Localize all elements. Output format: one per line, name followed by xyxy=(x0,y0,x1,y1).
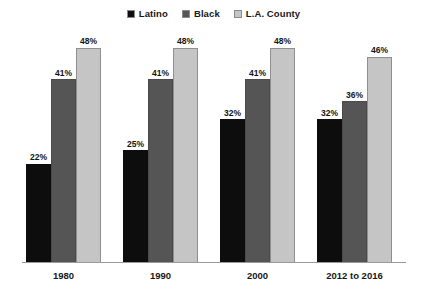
bar[interactable] xyxy=(76,48,101,262)
x-axis-tick-label: 2012 to 2016 xyxy=(317,266,392,286)
bar[interactable] xyxy=(26,164,51,262)
legend-entry-latino[interactable]: Latino xyxy=(127,9,168,19)
legend-entry-l-a-county[interactable]: L.A. County xyxy=(234,9,300,19)
bar[interactable] xyxy=(270,48,295,262)
bar[interactable] xyxy=(245,79,270,262)
legend-swatch-latino xyxy=(127,10,135,18)
bar-value-label: 48% xyxy=(274,37,291,46)
bar-value-label: 32% xyxy=(224,109,241,118)
bar-value-label: 41% xyxy=(152,69,169,78)
bar[interactable] xyxy=(317,119,342,262)
bar-slot: 32% xyxy=(220,30,245,262)
bar[interactable] xyxy=(367,57,392,262)
bar-value-label: 22% xyxy=(30,153,47,162)
bar-value-label: 25% xyxy=(127,140,144,149)
bar-group: 32%41%48% xyxy=(220,30,295,262)
bar-chart: LatinoBlackL.A. County 22%41%48%25%41%48… xyxy=(0,0,427,293)
bar-value-label: 48% xyxy=(80,37,97,46)
bar-value-label: 32% xyxy=(321,109,338,118)
x-axis-tick-label: 1990 xyxy=(123,266,198,286)
bar-slot: 48% xyxy=(270,30,295,262)
bar-slot: 41% xyxy=(245,30,270,262)
bar-slot: 41% xyxy=(148,30,173,262)
bar-value-label: 41% xyxy=(249,69,266,78)
bar-groups: 22%41%48%25%41%48%32%41%48%32%36%46% xyxy=(22,30,406,262)
bar[interactable] xyxy=(342,101,367,262)
bar-slot: 25% xyxy=(123,30,148,262)
legend-label: Latino xyxy=(139,9,168,19)
x-axis-line xyxy=(22,262,406,263)
bar-group: 22%41%48% xyxy=(26,30,101,262)
plot-area: 22%41%48%25%41%48%32%41%48%32%36%46% xyxy=(22,30,406,262)
bar-group: 32%36%46% xyxy=(317,30,392,262)
bar-value-label: 36% xyxy=(346,91,363,100)
bar-value-label: 41% xyxy=(55,69,72,78)
bar-slot: 41% xyxy=(51,30,76,262)
bar-slot: 32% xyxy=(317,30,342,262)
chart-legend: LatinoBlackL.A. County xyxy=(0,9,427,19)
bar-slot: 46% xyxy=(367,30,392,262)
bar[interactable] xyxy=(220,119,245,262)
bar-value-label: 48% xyxy=(177,37,194,46)
bar[interactable] xyxy=(123,150,148,262)
x-axis-tick-label: 1980 xyxy=(26,266,101,286)
legend-swatch-la-county xyxy=(234,10,242,18)
legend-swatch-black xyxy=(182,10,190,18)
bar[interactable] xyxy=(51,79,76,262)
x-axis-tick-labels: 1980199020002012 to 2016 xyxy=(22,266,406,286)
bar-slot: 48% xyxy=(76,30,101,262)
bar-slot: 22% xyxy=(26,30,51,262)
legend-entry-black[interactable]: Black xyxy=(182,9,220,19)
legend-label: Black xyxy=(194,9,220,19)
bar-slot: 36% xyxy=(342,30,367,262)
bar-slot: 48% xyxy=(173,30,198,262)
x-axis-tick-label: 2000 xyxy=(220,266,295,286)
bar-value-label: 46% xyxy=(371,46,388,55)
legend-label: L.A. County xyxy=(246,9,300,19)
bar-group: 25%41%48% xyxy=(123,30,198,262)
bar[interactable] xyxy=(173,48,198,262)
bar[interactable] xyxy=(148,79,173,262)
